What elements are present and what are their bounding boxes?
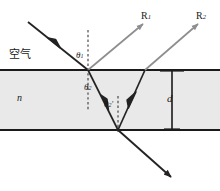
ray-label-r1: R1 [141,11,151,21]
reflected-ray-r2 [145,24,198,70]
diagram-canvas [0,0,220,191]
angle-theta1-subscript: 1 [80,53,83,59]
angle-label-theta2: θ2 [84,83,91,92]
medium-label-air: 空气 [9,49,31,60]
refractive-index-label: n [17,93,22,103]
angle-label-theta1: θ1 [76,51,83,60]
ray-label-r2-subscript: 2 [203,13,206,20]
ray-label-r1-subscript: 1 [148,13,151,20]
ray-label-r2-text: R [196,10,203,21]
incident-ray-arrowhead [48,38,60,48]
optics-slab-diagram: 空气 n d R1 R2 θ1 θ2 θ2′ [0,0,220,191]
angle-label-theta2-prime: θ2′ [104,100,113,109]
reflected-ray-r1 [88,24,143,70]
transmitted-ray [118,130,171,177]
angle-theta2-prime-mark: ′ [111,101,113,109]
ray-label-r1-text: R [141,10,148,21]
ray-label-r2: R2 [196,11,206,21]
thickness-label: d [167,93,173,104]
angle-theta2-subscript: 2 [88,85,91,91]
